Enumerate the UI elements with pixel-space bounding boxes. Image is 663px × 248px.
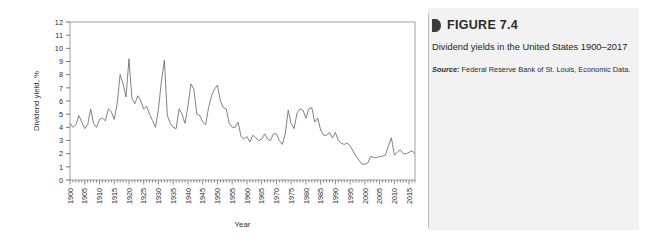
- y-tick-label: 10: [55, 44, 63, 53]
- x-tick-label: 1930: [154, 188, 163, 204]
- x-tick-label: 1900: [66, 188, 75, 204]
- figure-source-label: Source:: [432, 65, 460, 74]
- y-tick-label: 4: [59, 123, 63, 132]
- x-tick-label: 1910: [95, 188, 104, 204]
- x-tick-label: 2015: [405, 188, 414, 204]
- x-axis-title: Year: [235, 220, 251, 229]
- x-tick-label: 2005: [375, 188, 384, 204]
- figure-source-text: Federal Reserve Bank of St. Louis, Econo…: [460, 65, 631, 74]
- x-tick-label: 1985: [316, 188, 325, 204]
- x-tick-label: 1925: [139, 188, 148, 204]
- figure-title: FIGURE 7.4: [447, 18, 518, 32]
- x-tick-label: 1945: [198, 188, 207, 204]
- figure-heading: FIGURE 7.4: [432, 18, 637, 32]
- x-tick-label: 1915: [110, 188, 119, 204]
- x-tick-label: 1965: [257, 188, 266, 204]
- dividend-yield-line-chart: 0123456789101112190019051910191519201925…: [26, 8, 428, 230]
- figure-description: Dividend yields in the United States 190…: [432, 41, 637, 54]
- x-tick-label: 1950: [213, 188, 222, 204]
- x-tick-label: 1955: [228, 188, 237, 204]
- figure-marker-icon: [432, 19, 441, 32]
- y-axis-title: Dividend yield, %: [32, 71, 41, 131]
- figure-source: Source: Federal Reserve Bank of St. Loui…: [432, 65, 637, 75]
- x-tick-label: 2010: [390, 188, 399, 204]
- y-tick-label: 11: [55, 31, 63, 40]
- y-tick-label: 0: [59, 176, 63, 185]
- x-tick-label: 1990: [331, 188, 340, 204]
- panel-divider: [428, 14, 429, 228]
- y-tick-label: 6: [59, 97, 63, 106]
- y-tick-label: 5: [59, 110, 63, 119]
- y-tick-label: 7: [59, 84, 63, 93]
- x-tick-label: 1935: [169, 188, 178, 204]
- figure-caption: FIGURE 7.4 Dividend yields in the United…: [432, 14, 637, 75]
- x-tick-label: 1995: [346, 188, 355, 204]
- chart-card: 0123456789101112190019051910191519201925…: [26, 8, 428, 230]
- y-tick-label: 9: [59, 57, 63, 66]
- x-tick-label: 1980: [302, 188, 311, 204]
- y-tick-label: 12: [55, 18, 63, 27]
- y-tick-label: 1: [59, 163, 63, 172]
- y-tick-label: 3: [59, 136, 63, 145]
- x-tick-label: 1940: [184, 188, 193, 204]
- x-tick-label: 1960: [243, 188, 252, 204]
- figure-panel: 0123456789101112190019051910191519201925…: [26, 8, 639, 230]
- y-tick-label: 8: [59, 70, 63, 79]
- x-tick-label: 1970: [272, 188, 281, 204]
- x-tick-label: 1920: [125, 188, 134, 204]
- plot-frame: [70, 22, 415, 180]
- x-tick-label: 1905: [80, 188, 89, 204]
- x-tick-label: 2000: [361, 188, 370, 204]
- x-tick-label: 1975: [287, 188, 296, 204]
- y-tick-label: 2: [59, 149, 63, 158]
